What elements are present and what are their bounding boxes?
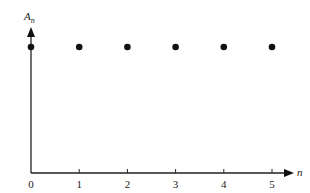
y-axis-arrow-icon — [27, 27, 35, 37]
data-point — [124, 44, 131, 51]
data-point — [269, 44, 276, 51]
x-tick-label: 2 — [125, 178, 131, 190]
x-tick-labels: 012345 — [28, 178, 275, 190]
x-tick-label: 1 — [76, 178, 82, 190]
x-tick-label: 3 — [173, 178, 179, 190]
data-point — [28, 44, 35, 51]
x-tick-label: 5 — [269, 178, 275, 190]
data-points — [28, 44, 276, 51]
x-tick-label: 0 — [28, 178, 34, 190]
data-point — [221, 44, 228, 51]
x-tick-label: 4 — [221, 178, 227, 190]
x-axis-label: n — [297, 166, 303, 178]
y-axis-label: An — [23, 10, 35, 25]
x-axis-arrow-icon — [284, 169, 294, 177]
data-point — [76, 44, 83, 51]
data-point — [172, 44, 179, 51]
chart: An n 012345 — [0, 0, 310, 193]
